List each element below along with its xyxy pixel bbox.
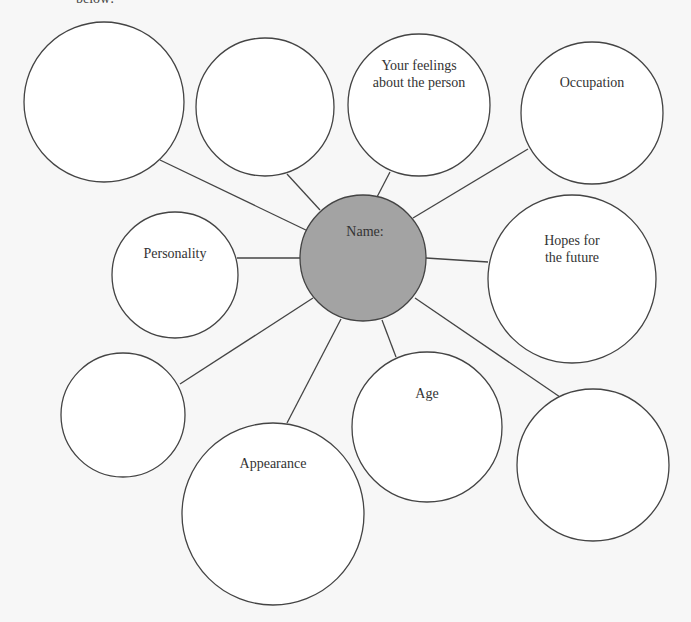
feelings-label-line1: Your feelings [381,58,456,73]
feelings-label-line2: about the person [373,75,466,90]
personality-label: Personality [144,246,207,261]
bubble-feelings[interactable] [348,34,490,176]
bubble-empty-top-left[interactable] [24,22,184,182]
connector-empty-top [287,174,320,210]
connector-age [382,320,396,357]
bubble-diagram: Name: Your feelings about the person Occ… [0,0,691,622]
bubble-empty-bottom-right[interactable] [517,389,669,541]
age-label: Age [415,386,438,401]
connector-appearance [287,319,341,423]
center-bubble-name[interactable] [300,195,426,321]
center-label: Name: [346,224,383,239]
connector-feelings [377,172,390,197]
appearance-label: Appearance [240,456,307,471]
hopes-label-line2: the future [545,250,599,265]
bubble-age[interactable] [352,352,502,502]
bubble-appearance[interactable] [182,423,364,605]
connector-hopes [426,258,488,262]
bubble-occupation[interactable] [521,42,663,184]
bubble-hopes[interactable] [488,195,656,363]
bubble-personality[interactable] [112,212,238,338]
occupation-label: Occupation [560,75,625,90]
hopes-label-line1: Hopes for [544,233,600,248]
bubble-empty-left[interactable] [61,353,185,477]
bubble-empty-top[interactable] [196,38,334,176]
